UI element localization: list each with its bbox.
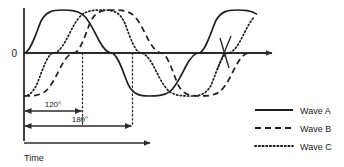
- dimension-180-label: 180°: [72, 115, 89, 124]
- legend-label-wave-a: Wave A: [300, 106, 331, 116]
- time-axis-group: Time: [24, 143, 150, 163]
- legend-label-wave-c: Wave C: [300, 142, 332, 152]
- dimension-120-label: 120°: [45, 100, 62, 109]
- marker-lines-group: [83, 53, 133, 126]
- waveform-svg: 0 120° 180° Time: [0, 0, 344, 167]
- time-axis-label: Time: [24, 153, 44, 163]
- origin-label: 0: [11, 48, 17, 59]
- legend-label-wave-b: Wave B: [300, 124, 331, 134]
- dimension-120: 120°: [25, 100, 82, 111]
- dimension-180: 180°: [25, 115, 132, 126]
- waveform-figure: 0 120° 180° Time: [0, 0, 344, 167]
- legend: Wave A Wave B Wave C: [255, 106, 332, 152]
